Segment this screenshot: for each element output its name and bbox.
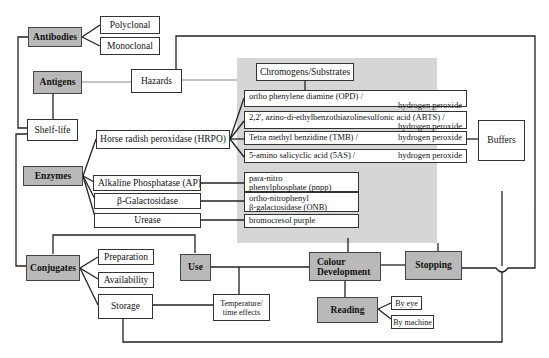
by-machine-box: By machine [391,315,434,329]
antibodies-box: Antibodies [28,27,82,47]
monoclonal-box: Monoclonal [100,37,160,55]
preparation-box: Preparation [98,249,154,265]
antigens-box: Antigens [33,71,82,94]
substrate-bromocresol: bromocresol purple [244,214,359,228]
enzyme-hrpo: Horse radish peroxidase (HRPO) [96,130,230,149]
temperature-box: Temperature/time effects [213,294,270,321]
substrate-5as: 5-amino salicyclic acid (5AS) /hydrogen … [244,149,467,163]
availability-box: Availability [98,272,154,288]
enzyme-urease: Urease [94,213,201,228]
chromogens-header: Chromogens/Substrates [256,63,354,81]
substrate-tmb: Tetra methyl benzidine (TMB) /hydrogen p… [244,131,467,145]
conjugates-box: Conjugates [26,255,80,281]
buffers-box: Buffers [478,120,525,161]
substrate-opd: ortho phenylene diamine (OPD) /hydrogen … [244,90,467,107]
storage-box: Storage [98,294,153,319]
enzyme-beta-galactosidase: β-Galactosidase [94,193,201,209]
substrate-abts: 2,2', azino-di-ethylbenzothiazolinesulfo… [244,111,467,129]
by-eye-box: By eye [391,296,422,310]
substrate-onb: ortho-nitrophenylβ-galactosidase (ONB) [244,192,359,212]
reading-box: Reading [317,297,378,323]
hazards-box: Hazards [131,69,182,93]
colour-development-box: Colour Development [309,252,381,281]
substrate-pnpp: para-nitrophenylphosphate (pnpp) [244,172,359,192]
stopping-box: Stopping [405,251,462,280]
enzymes-box: Enzymes [23,166,83,186]
shelf-life-box: Shelf-life [27,119,78,141]
use-box: Use [180,254,211,281]
polyclonal-box: Polyclonal [100,16,160,34]
enzyme-ap: Alkaline Phosphatase (AP) [93,175,201,191]
